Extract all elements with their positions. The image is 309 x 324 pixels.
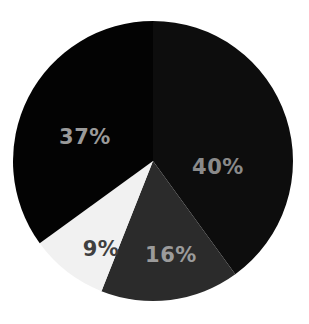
pie-slice-label-2: 16%	[145, 243, 197, 267]
pie-slice-label-4: 37%	[59, 125, 111, 149]
pie-slice-label-1: 40%	[192, 155, 244, 179]
pie-chart-container: 40%16%9%37%	[0, 0, 309, 324]
pie-chart-svg: 40%16%9%37%	[0, 0, 309, 324]
pie-slice-label-3: 9%	[83, 237, 120, 261]
pie-chart-screenshot: 40%16%9%37%	[0, 0, 309, 324]
